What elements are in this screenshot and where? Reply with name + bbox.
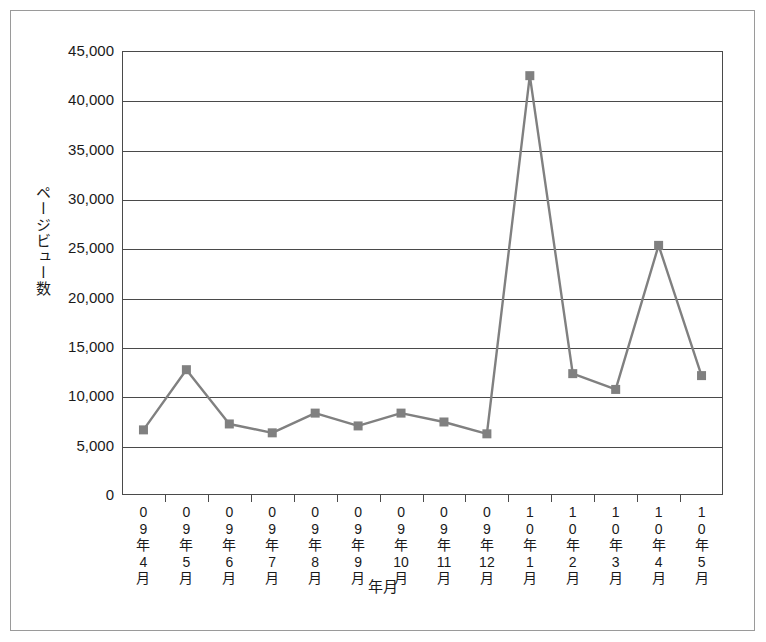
x-axis-tick-label-line: 年 [429, 537, 459, 554]
x-axis-tick-label-line: 9 [429, 521, 459, 538]
x-axis-tick-label-line: 3 [601, 554, 631, 571]
x-axis-tick-label-line: 1 [515, 504, 545, 521]
x-axis-tick-label: 09年4月 [128, 504, 158, 587]
x-axis-tick-marks [122, 495, 723, 502]
x-axis-tick-mark [680, 495, 681, 502]
x-axis-tick-label-line: 5 [687, 554, 717, 571]
x-axis-tick-label-line: 9 [300, 521, 330, 538]
x-axis-tick-label-line: 0 [601, 521, 631, 538]
x-axis-tick-label-line: 9 [472, 521, 502, 538]
x-axis-tick-label-line: 月 [171, 570, 201, 587]
x-axis-tick-label-line: 8 [300, 554, 330, 571]
x-axis-tick-label-line: 年 [558, 537, 588, 554]
x-axis-tick-label-line: 1 [644, 504, 674, 521]
gridline [123, 397, 722, 398]
y-axis-tick-label: 5,000 [76, 438, 114, 453]
x-axis-tick-label: 09年6月 [214, 504, 244, 587]
x-axis-tick-label: 09年11月 [429, 504, 459, 587]
x-axis-tick-label-line: 1 [601, 504, 631, 521]
x-axis-tick-label-line: 1 [558, 504, 588, 521]
x-axis-tick-label-line: 年 [214, 537, 244, 554]
x-axis-tick-label-line: 0 [558, 521, 588, 538]
gridline [123, 200, 722, 201]
x-axis-tick-label-line: 年 [515, 537, 545, 554]
gridline [123, 151, 722, 152]
x-axis-tick-mark [251, 495, 252, 502]
x-axis-tick-label-line: 年 [472, 537, 502, 554]
plot-area [122, 51, 723, 495]
x-axis-tick-label-line: 0 [515, 521, 545, 538]
x-axis-tick-mark [594, 495, 595, 502]
x-axis-tick-label-line: 1 [515, 554, 545, 571]
x-axis-tick-label-line: 9 [343, 521, 373, 538]
x-axis-tick-label: 10年5月 [687, 504, 717, 587]
x-axis-tick-label-line: 0 [429, 504, 459, 521]
x-axis-tick-label-line: 9 [128, 521, 158, 538]
x-axis-tick-label-line: 月 [515, 570, 545, 587]
x-axis-tick-label-line: 2 [558, 554, 588, 571]
x-axis-tick-label-line: 6 [214, 554, 244, 571]
x-axis-tick-label: 10年4月 [644, 504, 674, 587]
x-axis-tick-label-line: 0 [386, 504, 416, 521]
x-axis-tick-label-line: 年 [601, 537, 631, 554]
chart-page: ページビュー数 05,00010,00015,00020,00025,00030… [0, 0, 766, 642]
x-axis-tick-label-line: 月 [128, 570, 158, 587]
x-axis-tick-label-line: 12 [472, 554, 502, 571]
x-axis-tick-label-line: 11 [429, 554, 459, 571]
x-axis-tick-label-line: 0 [343, 504, 373, 521]
y-axis-tick-label: 10,000 [68, 388, 114, 403]
x-axis-tick-label-line: 9 [343, 554, 373, 571]
y-axis-tick-label: 45,000 [68, 43, 114, 58]
x-axis-tick-label: 10年1月 [515, 504, 545, 587]
x-axis-tick-label-line: 月 [386, 570, 416, 587]
x-axis-tick-label-line: 月 [687, 570, 717, 587]
gridline [123, 299, 722, 300]
x-axis-tick-mark [165, 495, 166, 502]
x-axis-tick-label: 09年7月 [257, 504, 287, 587]
x-axis-tick-label-line: 年 [343, 537, 373, 554]
x-axis-tick-mark [508, 495, 509, 502]
x-axis-tick-label: 10年2月 [558, 504, 588, 587]
gridline [123, 101, 722, 102]
x-axis-tick-label-line: 年 [128, 537, 158, 554]
x-axis-tick-label-line: 0 [687, 521, 717, 538]
x-axis-tick-label-line: 月 [472, 570, 502, 587]
x-axis-tick-label: 09年10月 [386, 504, 416, 587]
x-axis-tick-mark [637, 495, 638, 502]
y-axis-tick-label: 20,000 [68, 290, 114, 305]
x-axis-tick-label-line: 0 [171, 504, 201, 521]
x-axis-tick-label: 10年3月 [601, 504, 631, 587]
y-axis-tick-label: 35,000 [68, 142, 114, 157]
y-axis-tick-label: 25,000 [68, 240, 114, 255]
x-axis-tick-label-line: 年 [386, 537, 416, 554]
x-axis-tick-label-line: 月 [257, 570, 287, 587]
y-axis-tick-labels: 05,00010,00015,00020,00025,00030,00035,0… [42, 0, 114, 642]
x-axis-tick-mark [337, 495, 338, 502]
x-axis-tick-label-line: 月 [343, 570, 373, 587]
x-axis-tick-mark [294, 495, 295, 502]
x-axis-tick-mark [208, 495, 209, 502]
x-axis-tick-label-line: 月 [214, 570, 244, 587]
y-axis-tick-label: 15,000 [68, 339, 114, 354]
x-axis-tick-label-line: 1 [687, 504, 717, 521]
x-axis-tick-label-line: 月 [558, 570, 588, 587]
x-axis-tick-label-line: 4 [644, 554, 674, 571]
x-axis-tick-label-line: 0 [644, 521, 674, 538]
x-axis-tick-mark [423, 495, 424, 502]
x-axis-tick-mark [380, 495, 381, 502]
x-axis-tick-label: 09年8月 [300, 504, 330, 587]
x-axis-tick-label-line: 0 [128, 504, 158, 521]
x-axis-tick-label-line: 5 [171, 554, 201, 571]
x-axis-tick-label-line: 月 [300, 570, 330, 587]
x-axis-tick-label-line: 9 [171, 521, 201, 538]
x-axis-tick-label-line: 0 [472, 504, 502, 521]
y-axis-tick-label: 30,000 [68, 191, 114, 206]
x-axis-tick-mark [551, 495, 552, 502]
x-axis-tick-label-line: 9 [257, 521, 287, 538]
x-axis-tick-label: 09年9月 [343, 504, 373, 587]
x-axis-tick-label: 09年5月 [171, 504, 201, 587]
x-axis-tick-label-line: 9 [214, 521, 244, 538]
x-axis-tick-label-line: 年 [257, 537, 287, 554]
x-axis-tick-label-line: 年 [687, 537, 717, 554]
x-axis-tick-label: 09年12月 [472, 504, 502, 587]
